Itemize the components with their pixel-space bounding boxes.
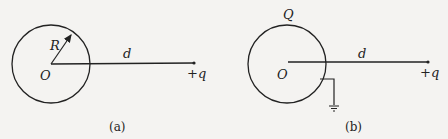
point-charge-b [426,60,429,63]
label-distance-a: d [123,46,131,61]
label-radius: R [49,38,60,53]
ground-icon [329,106,339,111]
label-sphere-charge: Q [283,7,294,22]
point-charge-a [192,61,195,64]
ground-wire [320,79,334,105]
sphere-b [248,25,326,103]
distance-line-a [51,63,194,64]
figure-a: R O d +q (a) [12,25,206,134]
label-center-a: O [40,68,51,83]
physics-diagram: R O d +q (a) Q O d +q (b) [0,0,448,139]
label-center-b: O [277,67,288,82]
figure-b: Q O d +q (b) [248,7,439,134]
caption-a: (a) [109,120,126,134]
label-charge-b: +q [420,65,439,80]
caption-b: (b) [345,120,362,134]
label-distance-b: d [358,46,366,61]
label-charge-a: +q [187,66,206,81]
